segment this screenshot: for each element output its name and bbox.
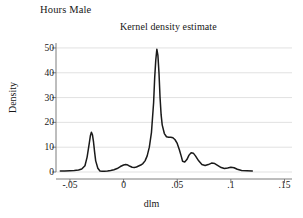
y-tick-label: 30 [45,93,55,103]
x-tick-label: -.05 [62,180,77,190]
axis-lines [56,43,292,179]
kernel-density-figure: Hours Male Kernel density estimate Densi… [0,0,303,218]
y-tick-labels: 01020304050 [30,43,54,172]
density-curve [60,49,252,171]
x-tick-label: .05 [171,180,183,190]
y-tick-label: 0 [49,167,54,177]
x-tick-labels: -.050.05.1.15 [0,180,303,196]
x-tick-label: .15 [279,180,291,190]
x-tick-label: 0 [121,180,126,190]
gridlines [56,48,292,172]
y-tick-label: 50 [45,43,55,53]
y-tick-label: 10 [45,142,55,152]
y-tick-label: 20 [45,117,55,127]
x-tick-label: .1 [227,180,234,190]
y-tick-label: 40 [45,68,55,78]
